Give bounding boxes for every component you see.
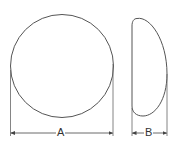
- dimension-label-b: B: [144, 127, 153, 138]
- dimension-label-a: A: [56, 127, 65, 138]
- dimension-diagram: [0, 0, 181, 152]
- front-view: [11, 15, 114, 137]
- side-view: [132, 18, 167, 136]
